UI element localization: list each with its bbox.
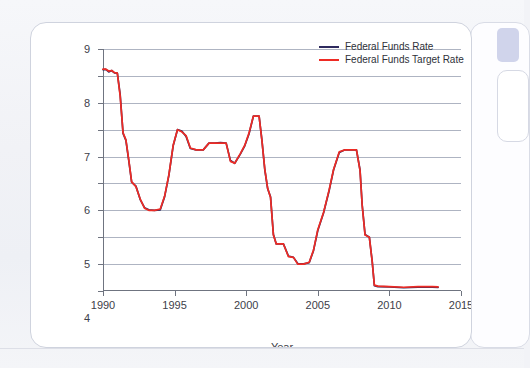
adjacent-inner-card <box>497 70 529 142</box>
x-axis-tick-label: 2010 <box>377 299 401 311</box>
legend-label: Federal Funds Target Rate <box>345 54 464 65</box>
y-axis-tick-label: 6 <box>84 204 90 216</box>
plot-area: 0123456789 199019952000200520102015 <box>103 49 461 291</box>
x-axis-title: Year <box>103 341 461 348</box>
adjacent-color-swatch <box>497 28 519 62</box>
x-axis-tick-label: 1995 <box>162 299 186 311</box>
x-axis-tick <box>461 291 462 296</box>
y-axis-tick-label: 5 <box>84 258 90 270</box>
page-seam-divider <box>0 348 524 349</box>
x-axis-tick-label: 2005 <box>306 299 330 311</box>
y-axis-tick-label: 9 <box>84 43 90 55</box>
y-axis-tick-label: 8 <box>84 97 90 109</box>
x-axis-tick <box>175 291 176 296</box>
x-axis-tick <box>318 291 319 296</box>
legend-label: Federal Funds Rate <box>345 41 433 52</box>
x-axis-tick <box>103 291 104 296</box>
x-axis-tick <box>389 291 390 296</box>
legend-color-swatch <box>319 59 339 61</box>
y-axis-tick-label: 4 <box>84 312 90 324</box>
x-axis-tick-label: 2000 <box>234 299 258 311</box>
x-axis-tick <box>246 291 247 296</box>
series-line <box>103 69 438 287</box>
chart-legend: Federal Funds RateFederal Funds Target R… <box>319 40 464 66</box>
x-axis-tick-label: 2015 <box>449 299 472 311</box>
legend-item: Federal Funds Target Rate <box>319 53 464 66</box>
series-line <box>103 69 438 287</box>
legend-color-swatch <box>319 46 339 48</box>
series-lines <box>103 49 461 291</box>
legend-item: Federal Funds Rate <box>319 40 464 53</box>
y-axis-tick-label: 7 <box>84 151 90 163</box>
x-axis-tick-label: 1990 <box>91 299 115 311</box>
chart-figure-card: 0123456789 199019952000200520102015 Perc… <box>30 22 472 348</box>
